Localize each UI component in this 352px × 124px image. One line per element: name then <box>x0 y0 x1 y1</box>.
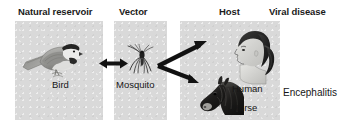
caption-human: Human <box>232 83 263 94</box>
caption-mosquito: Mosquito <box>116 79 155 90</box>
column-header-viral-disease: Viral disease <box>269 6 326 17</box>
column-header-vector: Vector <box>119 6 147 17</box>
caption-horse: Horse <box>232 102 257 113</box>
column-header-natural-reservoir: Natural reservoir <box>18 6 92 17</box>
caption-bird: Bird <box>52 79 69 90</box>
transmission-cycle-diagram: Natural reservoir Vector Host Viral dise… <box>0 0 352 124</box>
bird-image <box>22 36 84 80</box>
mosquito-image <box>126 44 158 74</box>
caption-encephalitis: Encephalitis <box>283 87 337 98</box>
column-header-host: Host <box>219 6 240 17</box>
